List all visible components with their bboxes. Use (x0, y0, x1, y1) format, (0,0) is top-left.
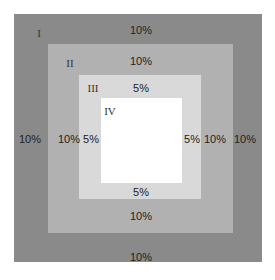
region-iii-bottom-margin: 5% (133, 186, 149, 198)
region-ii-bottom-margin: 10% (130, 210, 152, 222)
region-ii-top-margin: 10% (130, 55, 152, 67)
region-i-bottom-margin: 10% (130, 251, 152, 263)
region-i-left-margin: 10% (19, 133, 41, 145)
region-iii-left-margin: 5% (83, 133, 99, 145)
region-iii-top-margin: 5% (133, 82, 149, 94)
region-i-right-margin: 10% (234, 133, 256, 145)
region-ii-right-margin: 10% (204, 133, 226, 145)
region-i-top-margin: 10% (130, 24, 152, 36)
region-ii-label: II (66, 57, 73, 69)
region-i-label: I (37, 27, 41, 39)
region-iv-label: IV (104, 105, 116, 117)
region-iii-label: III (88, 82, 99, 94)
region-iii-right-margin: 5% (184, 133, 200, 145)
region-ii-left-margin: 10% (58, 133, 80, 145)
